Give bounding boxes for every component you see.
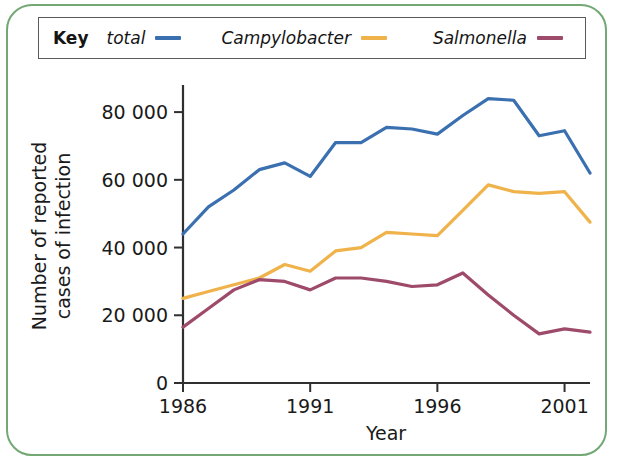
y-axis-ticks: 020 00040 00060 00080 000 bbox=[102, 101, 183, 394]
x-axis-ticks: 1986199119962001 bbox=[159, 383, 589, 417]
y-axis-tick-label: 40 000 bbox=[102, 237, 168, 259]
x-axis-tick-label: 1991 bbox=[286, 395, 334, 417]
chart-plot-area: 020 00040 00060 00080 000 19861991199620… bbox=[0, 0, 621, 466]
y-axis-tick-label: 0 bbox=[156, 372, 168, 394]
x-axis-tick-label: 1996 bbox=[413, 395, 461, 417]
series-paths-group bbox=[183, 99, 590, 334]
line-chart-svg: 020 00040 00060 00080 000 19861991199620… bbox=[0, 0, 621, 466]
x-axis-tick-label: 1986 bbox=[159, 395, 207, 417]
y-axis-title-line1: Number of reported bbox=[28, 142, 50, 331]
y-axis-tick-label: 20 000 bbox=[102, 304, 168, 326]
x-axis-tick-label: 2001 bbox=[540, 395, 588, 417]
chart-page: Key total Campylobacter Salmonella 020 0… bbox=[0, 0, 621, 466]
series-line-total bbox=[183, 99, 590, 234]
y-axis-tick-label: 80 000 bbox=[102, 101, 168, 123]
y-axis-title-line2: cases of infection bbox=[52, 153, 74, 320]
x-axis-title: Year bbox=[365, 422, 406, 444]
y-axis-tick-label: 60 000 bbox=[102, 169, 168, 191]
